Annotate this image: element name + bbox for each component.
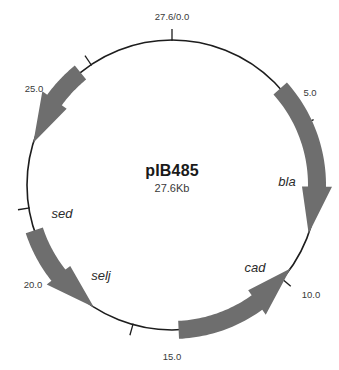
gene-label-bla: bla <box>278 174 295 189</box>
tick-mark <box>130 324 133 336</box>
tick-mark <box>18 208 30 210</box>
gene-arrows-group: blacadseljsed <box>26 66 332 339</box>
plasmid-map-figure: 27.6/0.05.010.015.020.025.0 blacadseljse… <box>0 0 339 370</box>
gene-label-selj: selj <box>91 268 112 283</box>
tick-mark <box>85 56 92 66</box>
plasmid-size-label: 27.6Kb <box>155 182 190 194</box>
plasmid-map-canvas: 27.6/0.05.010.015.020.025.0 blacadseljse… <box>0 0 339 370</box>
gene-label-sed: sed <box>52 206 74 221</box>
gene-arrow-selj <box>26 228 94 308</box>
gene-arrow-sed <box>33 66 86 143</box>
tick-label: 15.0 <box>163 351 182 362</box>
tick-label: 25.0 <box>25 83 44 94</box>
tick-label: 10.0 <box>302 289 321 300</box>
tick-label: 27.6/0.0 <box>155 11 189 22</box>
tick-label: 5.0 <box>303 87 316 98</box>
gene-label-cad: cad <box>245 260 267 275</box>
gene-arrow-bla <box>273 82 332 233</box>
tick-label: 20.0 <box>24 279 43 290</box>
plasmid-name-label: pIB485 <box>145 162 199 179</box>
gene-arrow-cad <box>178 269 290 339</box>
